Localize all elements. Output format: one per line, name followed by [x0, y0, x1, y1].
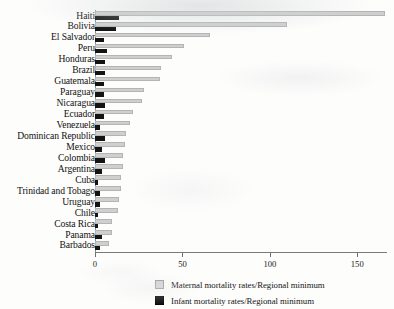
- bar-infant: [95, 38, 104, 43]
- bar-infant: [95, 158, 105, 163]
- legend-item-infant: Infant mortality rates/Regional minimum: [155, 294, 325, 307]
- chart-legend: Maternal mortality rates/Regional minimu…: [155, 278, 325, 309]
- bar-maternal: [95, 22, 287, 27]
- bar-maternal: [95, 11, 385, 16]
- legend-label-infant: Infant mortality rates/Regional minimum: [171, 296, 314, 306]
- y-axis-label: Ecuador: [64, 109, 95, 119]
- y-axis-label: Mexico: [66, 142, 95, 152]
- x-tick-mark: [95, 253, 96, 257]
- y-axis-label: El Salvador: [51, 32, 95, 42]
- bar-infant: [95, 16, 119, 21]
- y-axis-label: Brazil: [72, 65, 95, 75]
- bar-infant: [95, 147, 102, 152]
- bar-infant: [95, 213, 98, 218]
- x-axis-line: [95, 252, 387, 253]
- x-tick-label: 150: [351, 259, 364, 269]
- y-axis-label: Argentina: [58, 164, 95, 174]
- y-axis-label: Guatemala: [54, 76, 95, 86]
- bar-infant: [95, 224, 98, 229]
- y-axis-label: Uruguay: [62, 197, 95, 207]
- y-axis-label: Peru: [78, 43, 95, 53]
- bar-infant: [95, 191, 100, 196]
- bar-infant: [95, 246, 100, 251]
- bar-infant: [95, 103, 105, 108]
- bar-infant: [95, 82, 104, 87]
- bar-maternal: [95, 77, 160, 82]
- bar-infant: [95, 49, 107, 54]
- bar-infant: [95, 27, 116, 32]
- y-axis-label: Cuba: [75, 175, 95, 185]
- legend-swatch-infant-icon: [155, 296, 164, 305]
- bar-infant: [95, 71, 105, 76]
- x-tick-label: 50: [178, 259, 187, 269]
- y-axis-label: Paraguay: [60, 87, 95, 97]
- y-axis-label: Costa Rica: [54, 219, 95, 229]
- legend-label-maternal: Maternal mortality rates/Regional minimu…: [171, 280, 325, 290]
- bar-maternal: [95, 33, 210, 38]
- y-axis-label: Chile: [75, 208, 95, 218]
- y-axis-label: Dominican Republic: [17, 131, 95, 141]
- bar-infant: [95, 180, 98, 185]
- bar-infant: [95, 169, 102, 174]
- bar-infant: [95, 202, 100, 207]
- bar-infant: [95, 60, 105, 65]
- y-axis-label: Bolivia: [67, 21, 95, 31]
- y-axis-label: Barbados: [60, 240, 95, 250]
- bar-maternal: [95, 55, 172, 60]
- x-tick-label: 100: [263, 259, 276, 269]
- x-tick-mark: [270, 253, 271, 257]
- y-axis-label: Honduras: [58, 54, 95, 64]
- legend-swatch-maternal-icon: [155, 280, 164, 289]
- x-tick-label: 0: [93, 259, 97, 269]
- y-axis-label: Panama: [65, 230, 95, 240]
- bar-infant: [95, 235, 102, 240]
- y-axis-label: Nicaragua: [56, 98, 95, 108]
- bar-infant: [95, 125, 100, 130]
- y-axis-label: Colombia: [58, 153, 95, 163]
- y-axis-label: Haiti: [76, 11, 95, 21]
- chart-figure: HaitiBoliviaEl SalvadorPeruHondurasBrazi…: [0, 0, 394, 309]
- x-tick-mark: [357, 253, 358, 257]
- bar-maternal: [95, 121, 130, 126]
- y-axis-label: Venezuela: [56, 120, 95, 130]
- x-tick-mark: [182, 253, 183, 257]
- bar-maternal: [95, 44, 184, 49]
- y-axis-label: Trinidad and Tobago: [17, 186, 95, 196]
- legend-item-maternal: Maternal mortality rates/Regional minimu…: [155, 278, 325, 291]
- bar-maternal: [95, 175, 121, 180]
- bar-infant: [95, 114, 104, 119]
- bar-infant: [95, 92, 104, 97]
- bar-infant: [95, 136, 105, 141]
- plot-area: HaitiBoliviaEl SalvadorPeruHondurasBrazi…: [0, 0, 394, 309]
